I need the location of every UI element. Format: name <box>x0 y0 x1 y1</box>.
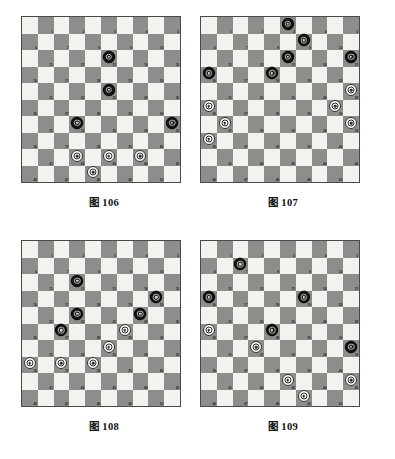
board-square-light[interactable] <box>148 83 164 100</box>
board-square-light[interactable] <box>148 17 164 34</box>
board-square-36[interactable]: 36 <box>201 357 217 374</box>
board-square-25[interactable]: 25 <box>164 83 180 100</box>
board-square-14[interactable]: 14 <box>312 50 328 67</box>
board-square-light[interactable] <box>217 258 233 275</box>
draughts-board[interactable]: 1234567891011121314151617181920212223242… <box>21 16 181 183</box>
board-square-light[interactable] <box>296 373 312 390</box>
black-piece[interactable] <box>203 67 215 79</box>
board-square-42[interactable]: 42 <box>248 373 264 390</box>
board-square-27[interactable]: 27 <box>54 100 70 117</box>
board-square-27[interactable]: 27 <box>233 100 249 117</box>
black-piece[interactable] <box>266 324 278 336</box>
board-square-29[interactable]: 29 <box>296 100 312 117</box>
board-square-light[interactable] <box>133 390 149 407</box>
board-square-6[interactable]: 6 <box>22 258 38 275</box>
board-square-28[interactable]: 28 <box>264 324 280 341</box>
board-square-light[interactable] <box>233 17 249 34</box>
board-square-19[interactable]: 19 <box>117 291 133 308</box>
board-square-33[interactable]: 33 <box>101 340 117 357</box>
board-square-27[interactable]: 27 <box>233 324 249 341</box>
board-square-40[interactable]: 40 <box>148 357 164 374</box>
board-square-8[interactable]: 8 <box>85 34 101 51</box>
board-square-14[interactable]: 14 <box>133 274 149 291</box>
board-square-light[interactable] <box>233 83 249 100</box>
board-square-3[interactable]: 3 <box>101 241 117 258</box>
board-square-11[interactable]: 11 <box>217 274 233 291</box>
white-piece[interactable] <box>250 341 262 353</box>
board-square-light[interactable] <box>264 149 280 166</box>
board-square-light[interactable] <box>38 67 54 84</box>
board-square-light[interactable] <box>54 149 70 166</box>
white-piece[interactable] <box>87 166 99 178</box>
board-square-43[interactable]: 43 <box>280 373 296 390</box>
board-square-38[interactable]: 38 <box>264 133 280 150</box>
board-square-37[interactable]: 37 <box>54 357 70 374</box>
board-square-5[interactable]: 5 <box>164 17 180 34</box>
board-square-light[interactable] <box>22 307 38 324</box>
draughts-board[interactable]: 1234567891011121314151617181920212223242… <box>200 16 360 183</box>
board-square-12[interactable]: 12 <box>69 50 85 67</box>
board-square-light[interactable] <box>201 149 217 166</box>
board-square-47[interactable]: 47 <box>233 166 249 183</box>
board-square-light[interactable] <box>343 133 359 150</box>
white-piece[interactable] <box>203 100 215 112</box>
board-square-18[interactable]: 18 <box>85 291 101 308</box>
board-square-24[interactable]: 24 <box>133 83 149 100</box>
board-square-42[interactable]: 42 <box>248 149 264 166</box>
board-square-light[interactable] <box>296 83 312 100</box>
board-square-23[interactable]: 23 <box>101 83 117 100</box>
board-square-26[interactable]: 26 <box>22 324 38 341</box>
board-square-22[interactable]: 22 <box>248 83 264 100</box>
board-square-light[interactable] <box>248 258 264 275</box>
board-square-light[interactable] <box>38 133 54 150</box>
board-square-light[interactable] <box>343 100 359 117</box>
board-square-light[interactable] <box>148 149 164 166</box>
board-square-light[interactable] <box>233 149 249 166</box>
black-piece[interactable] <box>103 84 115 96</box>
board-square-light[interactable] <box>148 241 164 258</box>
board-square-light[interactable] <box>164 100 180 117</box>
board-square-43[interactable]: 43 <box>101 373 117 390</box>
board-square-light[interactable] <box>296 274 312 291</box>
board-square-light[interactable] <box>85 241 101 258</box>
board-square-light[interactable] <box>69 390 85 407</box>
board-square-light[interactable] <box>327 50 343 67</box>
board-square-12[interactable]: 12 <box>69 274 85 291</box>
board-square-light[interactable] <box>38 100 54 117</box>
board-square-5[interactable]: 5 <box>343 17 359 34</box>
board-square-light[interactable] <box>312 258 328 275</box>
board-square-light[interactable] <box>264 241 280 258</box>
board-square-light[interactable] <box>217 357 233 374</box>
board-square-light[interactable] <box>101 166 117 183</box>
board-square-44[interactable]: 44 <box>133 373 149 390</box>
board-square-light[interactable] <box>296 116 312 133</box>
board-square-light[interactable] <box>69 166 85 183</box>
board-square-46[interactable]: 46 <box>22 390 38 407</box>
board-square-18[interactable]: 18 <box>264 67 280 84</box>
board-square-2[interactable]: 2 <box>248 241 264 258</box>
board-square-light[interactable] <box>148 50 164 67</box>
board-square-25[interactable]: 25 <box>164 307 180 324</box>
board-square-45[interactable]: 45 <box>343 373 359 390</box>
black-piece[interactable] <box>298 34 310 46</box>
board-square-41[interactable]: 41 <box>38 149 54 166</box>
board-square-light[interactable] <box>54 274 70 291</box>
board-square-44[interactable]: 44 <box>312 373 328 390</box>
board-square-50[interactable]: 50 <box>148 166 164 183</box>
board-square-light[interactable] <box>69 100 85 117</box>
board-square-49[interactable]: 49 <box>296 390 312 407</box>
board-square-2[interactable]: 2 <box>69 17 85 34</box>
board-square-14[interactable]: 14 <box>133 50 149 67</box>
board-square-39[interactable]: 39 <box>296 133 312 150</box>
board-square-light[interactable] <box>264 17 280 34</box>
board-square-4[interactable]: 4 <box>312 17 328 34</box>
board-square-light[interactable] <box>38 324 54 341</box>
board-square-43[interactable]: 43 <box>280 149 296 166</box>
board-square-light[interactable] <box>133 100 149 117</box>
board-square-35[interactable]: 35 <box>343 116 359 133</box>
board-square-47[interactable]: 47 <box>233 390 249 407</box>
board-square-29[interactable]: 29 <box>117 100 133 117</box>
board-square-light[interactable] <box>280 357 296 374</box>
board-square-45[interactable]: 45 <box>164 149 180 166</box>
board-square-10[interactable]: 10 <box>327 258 343 275</box>
